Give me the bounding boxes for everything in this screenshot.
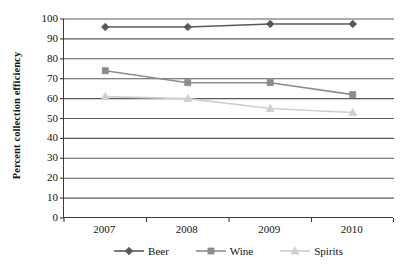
data-point-marker	[208, 248, 214, 254]
y-axis-tick-label: 20	[24, 172, 58, 183]
plot-svg	[64, 19, 394, 218]
data-point-marker	[350, 92, 356, 98]
legend-swatch-square-icon	[195, 245, 227, 257]
data-point-marker	[185, 80, 191, 86]
y-axis-tick-label: 10	[24, 192, 58, 203]
legend-swatch-triangle-icon	[279, 245, 311, 257]
x-axis-tick-label: 2010	[311, 222, 394, 240]
legend-label: Beer	[148, 245, 169, 257]
line-chart: Percent collection efficiency 1009080706…	[0, 0, 412, 266]
x-axis-tick-label: 2009	[228, 222, 311, 240]
y-axis-tick-label: 30	[24, 152, 58, 163]
series-spirits	[101, 92, 356, 115]
data-point-marker	[125, 247, 133, 255]
x-axis-tick-label: 2008	[146, 222, 229, 240]
y-axis-tick-label: 80	[24, 53, 58, 64]
data-point-marker	[267, 80, 273, 86]
gridlines	[64, 19, 394, 198]
series-line	[105, 71, 353, 95]
data-point-marker	[184, 23, 192, 31]
y-axis-tick-label: 100	[24, 13, 58, 24]
x-axis-tick-label: 2007	[63, 222, 146, 240]
data-point-marker	[102, 68, 108, 74]
y-axis-tick-label: 50	[24, 113, 58, 124]
series-wine	[102, 68, 356, 98]
legend-item-wine[interactable]: Wine	[195, 245, 253, 257]
y-axis-tick-label: 70	[24, 73, 58, 84]
legend-item-beer[interactable]: Beer	[113, 245, 169, 257]
data-point-marker	[349, 20, 357, 28]
data-point-marker	[101, 23, 109, 31]
y-axis-tick-label: 40	[24, 132, 58, 143]
y-axis-tick-labels: 1009080706050403020100	[20, 19, 58, 218]
x-axis-tick-labels: 2007200820092010	[63, 222, 393, 240]
y-axis-tick-label: 0	[24, 212, 58, 223]
y-axis-tick-label: 90	[24, 33, 58, 44]
series-beer	[101, 20, 356, 31]
legend-swatch-diamond-icon	[113, 245, 145, 257]
legend-label: Spirits	[314, 245, 343, 257]
legend-item-spirits[interactable]: Spirits	[279, 245, 343, 257]
legend-label: Wine	[230, 245, 253, 257]
plot-area	[63, 19, 393, 218]
y-axis-tick-label: 60	[24, 93, 58, 104]
series-line	[105, 24, 353, 27]
chart-legend: BeerWineSpirits	[63, 242, 393, 260]
data-point-marker	[266, 20, 274, 28]
y-axis-ticks	[60, 19, 64, 218]
